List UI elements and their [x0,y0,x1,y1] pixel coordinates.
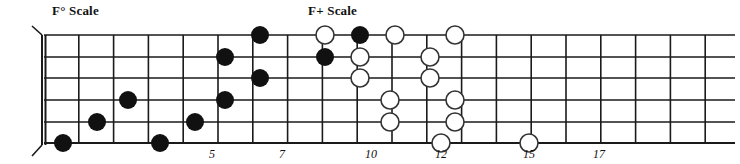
open-note-dot [386,26,404,44]
open-note-dot [446,91,464,109]
open-note-dot [381,113,399,131]
filled-note-dot [316,48,334,66]
open-note-dot [351,48,369,66]
open-note-dot [446,113,464,131]
fret-number: 10 [365,147,377,162]
headstock-edge-top [32,26,42,35]
filled-note-dot [88,113,106,131]
filled-note-dot [216,91,234,109]
filled-note-dot [251,26,269,44]
filled-note-dot [186,113,204,131]
fretboard-graphic [0,0,740,164]
open-note-dot [421,69,439,87]
filled-note-dot [119,91,137,109]
fretboard-diagram: F° Scale F+ Scale 5710121517 [0,0,740,164]
open-note-dot [316,26,334,44]
filled-note-dot [351,26,369,44]
fret-number: 15 [523,147,535,162]
fret-number: 7 [279,147,285,162]
filled-note-dot [151,134,169,152]
filled-note-dot [54,134,72,152]
open-note-dot [446,26,464,44]
filled-note-dot [216,48,234,66]
open-note-dot [421,48,439,66]
open-note-dot [351,69,369,87]
fret-number: 17 [593,147,605,162]
headstock-edge-bottom [32,145,42,156]
fret-number: 5 [209,147,215,162]
nut [32,26,46,156]
open-note-dot [381,91,399,109]
fret-number: 12 [435,147,447,162]
filled-note-dot [251,69,269,87]
